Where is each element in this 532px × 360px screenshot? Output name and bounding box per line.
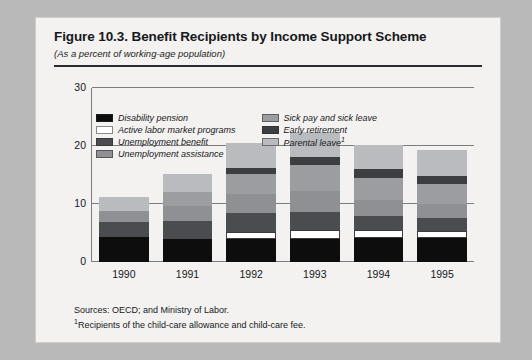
bar-segment-1994-sick_pay_and_sick_leave [354, 178, 404, 200]
x-axis-label-1991: 1991 [163, 268, 213, 284]
bar-segment-1992-active_labor_market_programs [226, 232, 276, 239]
figure-subtitle: (As a percent of working-age population) [54, 48, 474, 59]
legend-label-sick_pay_and_sick_leave: Sick pay and sick leave [284, 113, 378, 123]
bar-segment-1992-disability_pension [226, 239, 276, 262]
x-axis-label-1992: 1992 [226, 268, 276, 284]
bar-segment-1990-disability_pension [99, 237, 149, 262]
stacked-bar-1994[interactable] [354, 145, 404, 262]
legend-label-active_labor_market_programs: Active labor market programs [118, 125, 236, 135]
legend-label-early_retirement: Early retirement [284, 125, 348, 135]
legend-label-unemployment_benefit: Unemployment benefit [118, 137, 208, 147]
chart-legend: Disability pensionActive labor market pr… [96, 112, 377, 159]
bar-segment-1991-parental_leave [163, 174, 213, 193]
legend-item-unemployment_benefit[interactable]: Unemployment benefit [96, 136, 236, 147]
bar-segment-1995-sick_pay_and_sick_leave [417, 184, 467, 204]
legend-swatch-sick_pay_and_sick_leave [262, 114, 279, 122]
bar-segment-1991-unemployment_assistance [163, 206, 213, 221]
bar-segment-1993-sick_pay_and_sick_leave [290, 165, 340, 191]
footnote-text: Recipients of the child-care allowance a… [78, 320, 306, 330]
stacked-bar-1995[interactable] [417, 149, 467, 262]
y-tick-label-0: 0 [80, 255, 86, 267]
bar-segment-1992-sick_pay_and_sick_leave [226, 174, 276, 194]
legend-label-parental_leave: Parental leave1 [284, 136, 345, 148]
legend-swatch-unemployment_assistance [96, 150, 113, 158]
y-tick-label-10: 10 [74, 197, 86, 209]
bar-segment-1993-active_labor_market_programs [290, 230, 340, 239]
legend-swatch-unemployment_benefit [96, 138, 113, 146]
sources-line: Sources: OECD; and Ministry of Labor. [74, 304, 474, 317]
bar-segment-1992-unemployment_benefit [226, 213, 276, 232]
title-divider [54, 65, 482, 67]
legend-item-unemployment_assistance[interactable]: Unemployment assistance [96, 148, 236, 159]
x-axis-label-1993: 1993 [290, 268, 340, 284]
bar-segment-1991-sick_pay_and_sick_leave [163, 192, 213, 206]
y-tick-label-30: 30 [74, 81, 86, 93]
legend-footnote-marker: 1 [341, 136, 345, 143]
legend-item-disability_pension[interactable]: Disability pension [96, 112, 236, 123]
x-axis-label-1990: 1990 [99, 268, 149, 284]
chart-plot-area: 0102030 199019911992199319941995 Disabil… [54, 78, 482, 294]
legend-label-unemployment_assistance: Unemployment assistance [118, 149, 224, 159]
legend-item-parental_leave[interactable]: Parental leave1 [262, 136, 378, 147]
bar-segment-1994-unemployment_benefit [354, 216, 404, 230]
bar-segment-1992-unemployment_assistance [226, 194, 276, 213]
x-axis-label-1995: 1995 [417, 268, 467, 284]
bar-segment-1990-unemployment_benefit [99, 222, 149, 237]
legend-swatch-disability_pension [96, 114, 113, 122]
figure-title: Figure 10.3. Benefit Recipients by Incom… [54, 30, 474, 45]
bar-segment-1995-active_labor_market_programs [417, 231, 467, 238]
legend-swatch-parental_leave [262, 138, 279, 146]
bar-segment-1990-parental_leave [99, 197, 149, 211]
bar-segment-1995-early_retirement [417, 176, 467, 184]
bar-segment-1993-unemployment_benefit [290, 212, 340, 231]
x-axis-labels: 199019911992199319941995 [92, 268, 474, 284]
x-axis-label-1994: 1994 [354, 268, 404, 284]
legend-swatch-early_retirement [262, 126, 279, 134]
bar-segment-1991-unemployment_benefit [163, 221, 213, 238]
y-tick-label-20: 20 [74, 139, 86, 151]
legend-item-active_labor_market_programs[interactable]: Active labor market programs [96, 124, 236, 135]
legend-swatch-active_labor_market_programs [96, 126, 113, 134]
bar-segment-1994-disability_pension [354, 238, 404, 262]
bar-segment-1994-active_labor_market_programs [354, 230, 404, 238]
bar-segment-1993-disability_pension [290, 239, 340, 262]
bar-segment-1993-unemployment_assistance [290, 191, 340, 212]
legend-column-left: Disability pensionActive labor market pr… [96, 112, 236, 159]
bar-segment-1992-early_retirement [226, 168, 276, 175]
bar-segment-1991-disability_pension [163, 239, 213, 262]
bar-segment-1995-parental_leave [417, 150, 467, 177]
stacked-bar-1992[interactable] [226, 143, 276, 262]
footnote-line: 1Recipients of the child-care allowance … [74, 317, 474, 332]
legend-label-disability_pension: Disability pension [118, 113, 188, 123]
bar-segment-1995-unemployment_assistance [417, 204, 467, 218]
bar-segment-1990-unemployment_assistance [99, 211, 149, 222]
legend-item-sick_pay_and_sick_leave[interactable]: Sick pay and sick leave [262, 112, 378, 123]
stacked-bar-1990[interactable] [99, 196, 149, 262]
stacked-bar-1991[interactable] [163, 174, 213, 262]
bar-segment-1994-early_retirement [354, 169, 404, 178]
bar-segment-1995-disability_pension [417, 238, 467, 262]
figure-panel: Figure 10.3. Benefit Recipients by Incom… [36, 18, 500, 342]
bar-slot-1995 [417, 88, 467, 262]
figure-notes: Sources: OECD; and Ministry of Labor. 1R… [74, 304, 474, 332]
bar-segment-1994-unemployment_assistance [354, 200, 404, 216]
legend-item-early_retirement[interactable]: Early retirement [262, 124, 378, 135]
bar-segment-1995-unemployment_benefit [417, 218, 467, 231]
legend-column-right: Sick pay and sick leaveEarly retirementP… [262, 112, 378, 159]
